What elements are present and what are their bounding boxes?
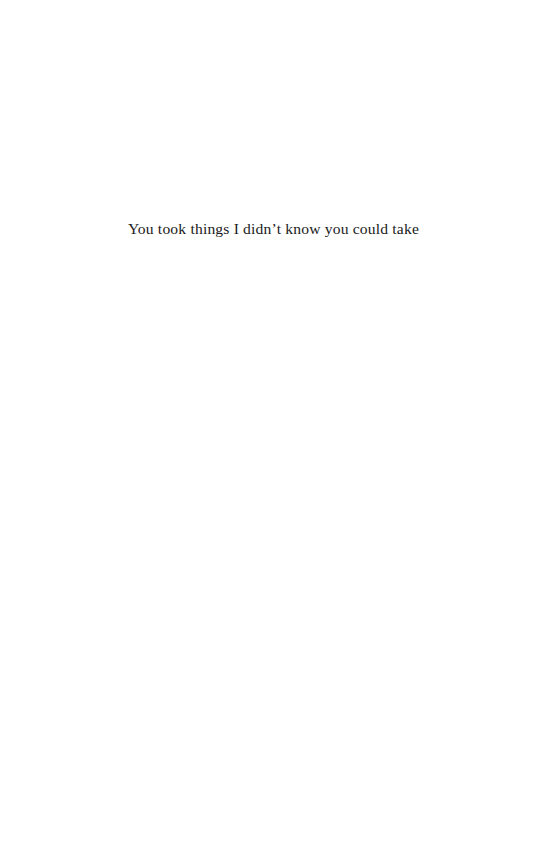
body-line: You took things I didn’t know you could … bbox=[20, 219, 527, 239]
page-text-block: You took things I didn’t know you could … bbox=[0, 219, 547, 239]
book-page: You took things I didn’t know you could … bbox=[0, 0, 547, 867]
